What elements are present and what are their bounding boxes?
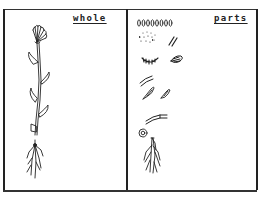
leaf <box>41 72 49 84</box>
stem-section-icon <box>146 115 167 124</box>
leaf <box>29 52 39 64</box>
whole-plant-illustration <box>27 25 49 178</box>
stem-segment-icon <box>140 76 153 86</box>
leaf-part-icon <box>161 89 170 98</box>
leaf <box>30 88 37 102</box>
scattered-seeds-icon <box>139 32 156 43</box>
calyx-icon <box>142 58 158 64</box>
flower-head-icon <box>33 25 47 43</box>
stem <box>35 43 39 135</box>
plant-parts-illustration <box>138 20 183 173</box>
root-part-icon <box>144 138 160 173</box>
stamen-strokes-icon <box>169 37 177 46</box>
flower-center-icon <box>139 129 147 137</box>
plant-drawings <box>0 0 266 199</box>
root-system-icon <box>27 140 43 178</box>
leaf <box>39 105 48 117</box>
petal-cluster-icon <box>171 56 182 63</box>
leaf-part-icon <box>143 87 154 99</box>
seed-row-icon <box>138 20 172 26</box>
